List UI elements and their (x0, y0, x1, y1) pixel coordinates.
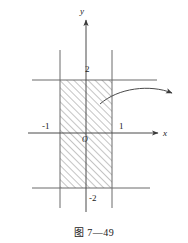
tick-label-x-neg1: -1 (42, 122, 50, 131)
coordinate-diagram (0, 0, 188, 243)
y-axis-label: y (80, 7, 84, 16)
tick-label-x-1: 1 (119, 122, 124, 131)
figure-caption: 图 7—49 (0, 224, 188, 239)
x-axis-label: x (163, 129, 167, 138)
origin-label: O (82, 136, 88, 144)
figure-container: y x O 2 -2 1 -1 图 7—49 (0, 0, 188, 243)
tick-label-y-neg2: -2 (89, 194, 97, 203)
tick-label-y-2: 2 (85, 65, 90, 74)
